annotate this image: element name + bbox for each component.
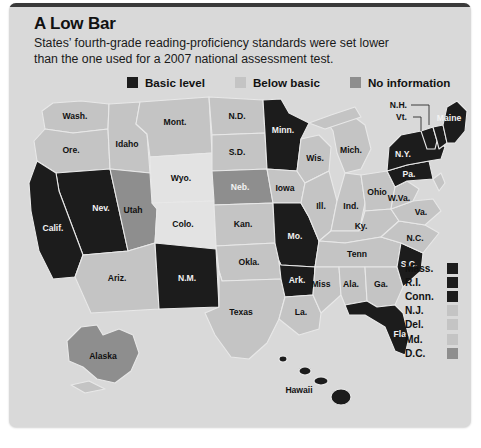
map-label-vt: Vt. bbox=[396, 112, 407, 122]
state-swatch bbox=[447, 319, 458, 330]
map-label-mo: Mo. bbox=[288, 231, 303, 241]
map-label-nev: Nev. bbox=[92, 203, 110, 213]
map-label-wis: Wis. bbox=[306, 153, 324, 163]
map-label-neb: Neb. bbox=[231, 182, 250, 192]
map-label-alaska: Alaska bbox=[89, 351, 117, 361]
state-swatch bbox=[447, 305, 458, 316]
state-hawaii[interactable] bbox=[279, 356, 351, 405]
map-label-va: Va. bbox=[415, 207, 427, 217]
legend-swatch-below bbox=[235, 77, 246, 88]
map-label-minn: Minn. bbox=[272, 125, 294, 135]
map-label-ala: Ala. bbox=[343, 279, 359, 289]
map-label-calif: Calif. bbox=[42, 223, 63, 233]
state-name: Del. bbox=[405, 319, 443, 330]
map-label-sd: S.D. bbox=[229, 147, 246, 157]
us-choropleth-map: Wash. Ore. Idaho Mont. Wyo. Nev. Calif. … bbox=[9, 91, 471, 421]
state-name: Mass. bbox=[405, 263, 443, 274]
legend-label-below: Below basic bbox=[253, 76, 320, 89]
list-item[interactable]: N.J. bbox=[405, 304, 471, 318]
list-item[interactable]: D.C. bbox=[405, 346, 471, 360]
map-label-ind: Ind. bbox=[343, 201, 358, 211]
map-label-texas: Texas bbox=[229, 307, 253, 317]
legend: Basic level Below basic No information bbox=[127, 75, 457, 89]
map-label-colo: Colo. bbox=[172, 219, 193, 229]
legend-label-basic: Basic level bbox=[145, 76, 205, 89]
map-label-ohio: Ohio bbox=[367, 187, 387, 197]
legend-item-basic: Basic level bbox=[127, 76, 205, 89]
state-swatch bbox=[447, 348, 458, 359]
map-label-okla: Okla. bbox=[238, 257, 259, 267]
legend-swatch-basic bbox=[127, 77, 138, 88]
map-label-pa: Pa. bbox=[403, 169, 416, 179]
list-item[interactable]: Md. bbox=[405, 332, 471, 346]
page-title: A Low Bar bbox=[34, 14, 116, 34]
legend-swatch-noinfo bbox=[350, 77, 361, 88]
leader-line-nh bbox=[411, 105, 429, 125]
map-label-utah: Utah bbox=[123, 205, 142, 215]
map-label-nd: N.D. bbox=[228, 111, 245, 121]
state-name: N.J. bbox=[405, 305, 443, 316]
state-legend-list: Mass. R.I. Conn. N.J. Del. Md. D.C. bbox=[405, 261, 471, 360]
state-name: Conn. bbox=[405, 291, 443, 302]
map-label-nh: N.H. bbox=[390, 100, 407, 110]
map-label-nc: N.C. bbox=[406, 233, 423, 243]
state-name: D.C. bbox=[405, 348, 443, 359]
state-swatch bbox=[447, 277, 458, 288]
map-label-ga: Ga. bbox=[374, 279, 388, 289]
map-label-ore: Ore. bbox=[62, 145, 79, 155]
map-label-ky: Ky. bbox=[355, 221, 368, 231]
leader-line-vt bbox=[413, 117, 421, 131]
state-nj-shape[interactable] bbox=[433, 173, 445, 191]
map-label-mont: Mont. bbox=[164, 117, 187, 127]
map-label-iowa: Iowa bbox=[275, 183, 294, 193]
state-fla[interactable] bbox=[345, 301, 409, 355]
list-item[interactable]: Mass. bbox=[405, 261, 471, 275]
page-subtitle: States’ fourth-grade reading-proficiency… bbox=[34, 36, 406, 67]
legend-label-noinfo: No information bbox=[368, 76, 450, 89]
state-swatch bbox=[447, 334, 458, 345]
infographic-card: A Low Bar States’ fourth-grade reading-p… bbox=[9, 3, 471, 427]
map-label-la: La. bbox=[295, 307, 307, 317]
list-item[interactable]: R.I. bbox=[405, 275, 471, 289]
state-swatch bbox=[447, 263, 458, 274]
map-label-mich: Mich. bbox=[340, 145, 362, 155]
map-label-kan: Kan. bbox=[234, 219, 253, 229]
alaska-islands bbox=[71, 381, 105, 393]
map-label-ariz: Ariz. bbox=[108, 273, 127, 283]
state-name: Md. bbox=[405, 334, 443, 345]
map-label-miss: Miss bbox=[311, 279, 330, 289]
map-label-idaho: Idaho bbox=[116, 139, 139, 149]
state-swatch bbox=[447, 291, 458, 302]
list-item[interactable]: Del. bbox=[405, 318, 471, 332]
map-label-wash: Wash. bbox=[63, 111, 88, 121]
top-rule bbox=[9, 3, 471, 7]
map-label-ill: Ill. bbox=[316, 201, 326, 211]
map-label-ny: N.Y. bbox=[395, 149, 411, 159]
map-label-nm: N.M. bbox=[178, 273, 196, 283]
map-label-hawaii: Hawaii bbox=[285, 385, 312, 395]
map-label-wva: W.Va. bbox=[388, 193, 410, 203]
map-label-tenn: Tenn bbox=[347, 249, 367, 259]
map-label-wyo: Wyo. bbox=[171, 173, 191, 183]
legend-item-noinfo: No information bbox=[350, 76, 450, 89]
list-item[interactable]: Conn. bbox=[405, 289, 471, 303]
map-label-ark: Ark. bbox=[289, 275, 306, 285]
legend-item-below: Below basic bbox=[235, 76, 320, 89]
map-label-maine: Maine bbox=[437, 113, 462, 123]
state-name: R.I. bbox=[405, 277, 443, 288]
map-svg: Wash. Ore. Idaho Mont. Wyo. Nev. Calif. … bbox=[9, 91, 471, 421]
